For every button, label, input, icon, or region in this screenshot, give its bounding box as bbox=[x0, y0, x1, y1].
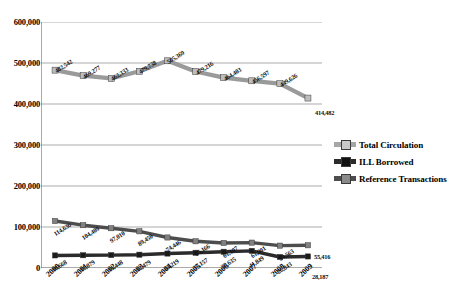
y-axis-tick-label: 200,000 bbox=[0, 181, 40, 191]
y-axis-tick-label: 100,000 bbox=[0, 222, 40, 232]
legend-label: ILL Borrowed bbox=[359, 157, 413, 167]
legend-swatch-reference-transactions bbox=[334, 176, 356, 181]
data-point bbox=[305, 254, 310, 259]
data-point bbox=[305, 243, 310, 248]
y-axis-tick-label: 400,000 bbox=[0, 99, 40, 109]
data-point bbox=[137, 252, 142, 257]
data-point bbox=[277, 243, 282, 248]
y-axis-tick-label: 300,000 bbox=[0, 140, 40, 150]
data-point bbox=[109, 226, 114, 231]
data-point bbox=[305, 95, 311, 101]
data-point-label: 28,187 bbox=[312, 273, 328, 280]
data-point bbox=[249, 240, 254, 245]
y-axis-tick-label: 0 bbox=[0, 263, 40, 273]
data-point bbox=[52, 253, 57, 258]
legend-label: Total Circulation bbox=[359, 140, 423, 150]
data-point bbox=[165, 235, 170, 240]
legend-marker bbox=[341, 140, 351, 150]
data-point-label: 55,416 bbox=[314, 253, 330, 260]
data-point bbox=[52, 218, 57, 223]
legend-item: Total Circulation bbox=[334, 136, 447, 153]
data-point-label: 414,482 bbox=[315, 109, 334, 116]
data-point bbox=[81, 253, 86, 258]
legend-swatch-ill-borrowed bbox=[334, 159, 356, 164]
legend-item: ILL Borrowed bbox=[334, 153, 447, 170]
y-axis-tick-label: 500,000 bbox=[0, 58, 40, 68]
legend-swatch-total-circulation bbox=[334, 142, 356, 147]
chart-container: 0100,000200,000300,000400,000500,000600,… bbox=[0, 0, 466, 303]
y-axis-tick-label: 600,000 bbox=[0, 17, 40, 27]
chart-svg bbox=[41, 22, 322, 268]
data-point bbox=[81, 223, 86, 228]
chart-legend: Total Circulation ILL Borrowed Reference… bbox=[334, 136, 447, 187]
legend-marker bbox=[341, 174, 351, 184]
data-point bbox=[193, 239, 198, 244]
legend-marker bbox=[341, 157, 351, 167]
data-point bbox=[221, 240, 226, 245]
plot-area bbox=[41, 22, 322, 268]
legend-label: Reference Transactions bbox=[359, 174, 447, 184]
data-point bbox=[137, 229, 142, 234]
legend-item: Reference Transactions bbox=[334, 170, 447, 187]
series-line-1 bbox=[55, 251, 308, 257]
data-point bbox=[109, 253, 114, 258]
